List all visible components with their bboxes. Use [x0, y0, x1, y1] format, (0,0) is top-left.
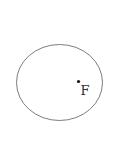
- ellipse: [17, 45, 103, 121]
- focus-label: F: [81, 83, 90, 98]
- ellipse-diagram: F: [0, 0, 135, 165]
